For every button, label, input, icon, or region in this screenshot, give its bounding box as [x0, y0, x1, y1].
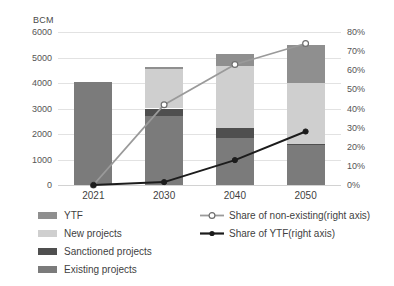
- line-marker: [161, 102, 167, 108]
- y-tick-label-left: 2000: [4, 129, 52, 139]
- legend-color-swatch: [38, 212, 57, 219]
- x-tick-label: 2030: [134, 190, 194, 201]
- y-tick-label-right: 70%: [347, 46, 393, 56]
- legend-item[interactable]: Share of non-existing(right axis): [200, 210, 370, 222]
- legend-color-swatch: [38, 248, 57, 255]
- y-axis-unit-label: BCM: [33, 15, 54, 25]
- line-series-overlay: [58, 32, 341, 185]
- y-tick-label-left: 1000: [4, 155, 52, 165]
- y-tick-label-right: 80%: [347, 27, 393, 37]
- line-marker: [232, 158, 237, 163]
- legend-item-label: Existing projects: [64, 264, 137, 275]
- line-path: [93, 44, 305, 186]
- x-tick-label: 2021: [63, 190, 123, 201]
- plot-area: [58, 32, 341, 185]
- line-marker: [303, 129, 308, 134]
- legend-line-marker-swatch: [200, 229, 224, 238]
- legend-line-marker-swatch: [200, 211, 224, 220]
- chart-container: BCM 0100020003000400050006000 0%10%20%30…: [0, 0, 394, 286]
- legend-item[interactable]: Share of YTF(right axis): [200, 228, 335, 240]
- legend-item-label: Share of YTF(right axis): [229, 228, 335, 239]
- legend-item-label: New projects: [64, 228, 122, 239]
- legend-item[interactable]: Existing projects: [38, 264, 137, 276]
- legend-item[interactable]: Sanctioned projects: [38, 246, 152, 258]
- y-tick-label-left: 6000: [4, 27, 52, 37]
- legend-item-label: Share of non-existing(right axis): [229, 210, 370, 221]
- legend-item-label: YTF: [64, 210, 83, 221]
- x-tick-label: 2050: [276, 190, 336, 201]
- y-tick-label-right: 20%: [347, 142, 393, 152]
- line-path: [93, 132, 305, 186]
- line-marker: [91, 182, 96, 187]
- x-tick-label: 2040: [205, 190, 265, 201]
- y-tick-label-right: 60%: [347, 65, 393, 75]
- chart-legend: YTFNew projectsSanctioned projectsExisti…: [0, 206, 394, 286]
- y-tick-label-left: 4000: [4, 78, 52, 88]
- legend-color-swatch: [38, 230, 57, 237]
- line-marker: [232, 62, 238, 68]
- legend-item[interactable]: New projects: [38, 228, 122, 240]
- line-marker: [303, 41, 309, 47]
- y-tick-label-right: 40%: [347, 104, 393, 114]
- y-tick-label-left: 3000: [4, 104, 52, 114]
- legend-color-swatch: [38, 266, 57, 273]
- y-tick-label-right: 10%: [347, 161, 393, 171]
- y-tick-label-right: 30%: [347, 123, 393, 133]
- legend-item-label: Sanctioned projects: [64, 246, 152, 257]
- y-tick-label-right: 0%: [347, 180, 393, 190]
- y-tick-label-left: 5000: [4, 53, 52, 63]
- y-tick-label-left: 0: [4, 180, 52, 190]
- line-marker: [162, 180, 167, 185]
- y-tick-label-right: 50%: [347, 84, 393, 94]
- legend-item[interactable]: YTF: [38, 210, 83, 222]
